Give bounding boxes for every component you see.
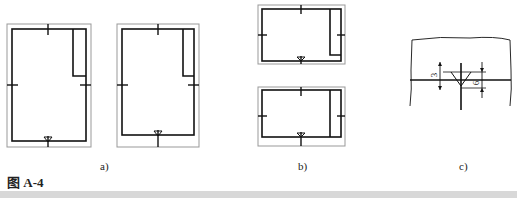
dimension-6: 6 bbox=[471, 81, 481, 86]
diagram-canvas bbox=[0, 0, 517, 198]
figure-caption: 图 A-4 bbox=[7, 172, 43, 191]
sheet-b-top bbox=[258, 5, 345, 64]
subfigure-label-c: c) bbox=[459, 160, 468, 172]
subfigure-label-a: a) bbox=[100, 160, 109, 172]
sheet-b-bottom bbox=[258, 87, 345, 146]
dimension-3: 3 bbox=[429, 73, 439, 78]
sheet-a-right bbox=[117, 24, 199, 147]
separator-bar bbox=[0, 191, 517, 198]
sheet-a-left bbox=[7, 24, 91, 147]
orientation-symbol-detail bbox=[410, 37, 511, 110]
subfigure-label-b: b) bbox=[298, 160, 307, 172]
